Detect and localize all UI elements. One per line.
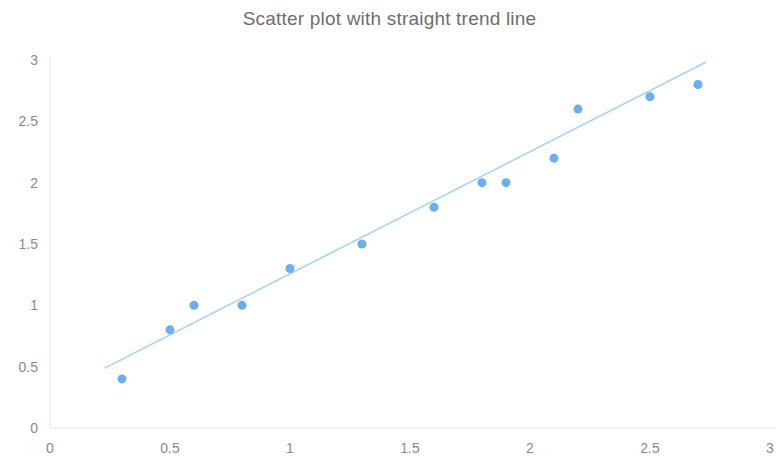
trend-line-series xyxy=(105,62,705,367)
x-axis-tick-label: 1 xyxy=(286,440,294,456)
data-point xyxy=(694,80,703,89)
x-axis-tick-label: 0 xyxy=(46,440,54,456)
data-point xyxy=(478,178,487,187)
y-axis-tick-label: 2.5 xyxy=(0,113,38,129)
y-axis-tick-label: 0 xyxy=(0,420,38,436)
data-point xyxy=(502,178,511,187)
y-axis-tick-label: 2 xyxy=(0,175,38,191)
data-point xyxy=(646,92,655,101)
y-axis-tick-label: 1.5 xyxy=(0,236,38,252)
data-point xyxy=(550,154,559,163)
axis-lines xyxy=(50,56,776,428)
data-point xyxy=(190,301,199,310)
trend-line xyxy=(105,62,705,367)
data-point xyxy=(574,105,583,114)
data-point xyxy=(286,264,295,273)
y-axis-tick-label: 3 xyxy=(0,52,38,68)
x-axis-tick-label: 2 xyxy=(526,440,534,456)
x-axis-tick-label: 3 xyxy=(766,440,774,456)
y-axis-tick-label: 0.5 xyxy=(0,359,38,375)
data-point xyxy=(118,374,127,383)
data-point xyxy=(166,325,175,334)
y-axis-tick-label: 1 xyxy=(0,297,38,313)
x-axis-tick-label: 2.5 xyxy=(640,440,659,456)
data-point xyxy=(238,301,247,310)
plot-area xyxy=(0,0,779,459)
data-point xyxy=(430,203,439,212)
data-point-series xyxy=(118,80,703,383)
data-point xyxy=(358,240,367,249)
scatter-chart: Scatter plot with straight trend line 00… xyxy=(0,0,779,459)
x-axis-tick-label: 0.5 xyxy=(160,440,179,456)
x-axis-tick-label: 1.5 xyxy=(400,440,419,456)
